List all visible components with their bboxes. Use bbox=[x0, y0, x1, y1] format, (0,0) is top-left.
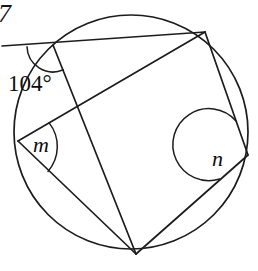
corner-mark-glyph: 7 bbox=[0, 0, 12, 28]
label-angle-m: m bbox=[33, 132, 49, 157]
label-angle-n: n bbox=[212, 146, 223, 171]
angle-arc-n bbox=[173, 109, 236, 181]
label-exterior-angle-104: 104° bbox=[8, 71, 52, 96]
chord-bottom-to-right bbox=[136, 155, 248, 254]
chord-left-to-bottom bbox=[18, 141, 136, 254]
secant-line-through-top bbox=[2, 32, 205, 46]
chord-topleft-to-bottom bbox=[53, 45, 136, 254]
geometry-canvas: 7 104° m n bbox=[0, 0, 258, 271]
geometry-figure: 7 104° m n bbox=[0, 0, 258, 271]
circle-outline bbox=[14, 15, 248, 249]
angle-arc-m bbox=[48, 123, 57, 171]
